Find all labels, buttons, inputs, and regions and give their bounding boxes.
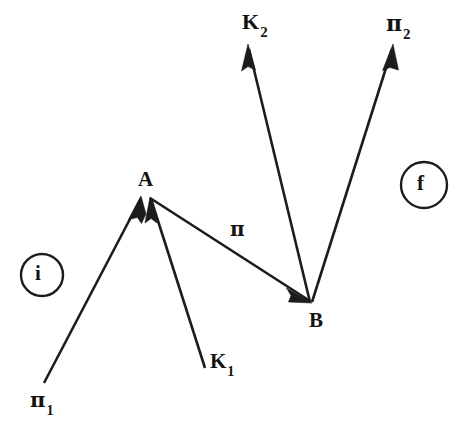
label-region-initial: i xyxy=(35,263,41,284)
label-vertex-b: B xyxy=(309,310,323,331)
label-incoming-pion: π1 xyxy=(30,389,53,414)
label-incoming-kaon-text: K xyxy=(210,349,226,373)
k1-line xyxy=(151,199,205,368)
label-incoming-pion-subscript: 1 xyxy=(46,402,53,418)
label-intermediate-pion-text: π xyxy=(230,217,245,241)
label-outgoing-kaon: K2 xyxy=(242,11,267,37)
label-outgoing-pion-subscript: 2 xyxy=(403,26,410,42)
label-incoming-kaon: K1 xyxy=(210,351,233,375)
k2-line xyxy=(249,49,310,302)
label-region-final: f xyxy=(417,173,424,194)
label-outgoing-kaon-text: K xyxy=(242,9,259,34)
label-outgoing-pion-text: π xyxy=(386,10,402,36)
region-final-circle xyxy=(401,162,447,208)
label-vertex-a: A xyxy=(138,169,153,190)
pi2-arrowhead xyxy=(383,44,399,71)
region-initial-circle xyxy=(21,254,63,296)
vector-k1-to-a xyxy=(145,197,205,368)
label-outgoing-kaon-subscript: 2 xyxy=(260,24,267,40)
label-intermediate-pion: π xyxy=(230,219,245,239)
pi2-line xyxy=(312,49,392,302)
vector-b-to-pi2 xyxy=(312,44,399,302)
vector-pi1-to-a xyxy=(44,196,146,383)
label-outgoing-pion: π2 xyxy=(386,12,410,39)
pi-line xyxy=(150,198,310,301)
label-incoming-kaon-subscript: 1 xyxy=(227,363,234,379)
pi1-line xyxy=(44,198,141,383)
label-incoming-pion-text: π xyxy=(30,387,45,412)
figure-canvas: K2 π2 A B π K1 π1 i f xyxy=(0,0,469,437)
k2-arrowhead xyxy=(242,44,256,71)
